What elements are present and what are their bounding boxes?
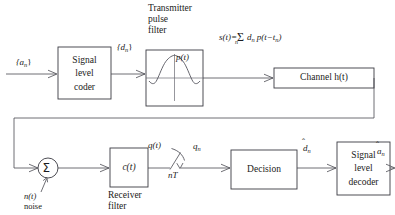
dn-hat-text: d — [303, 143, 308, 153]
block-diagram-canvas: {an} Signal level coder {dn} Transmitter… — [0, 0, 395, 215]
signal-dn-open: {d — [117, 42, 125, 52]
noise-line-2: noise — [24, 201, 42, 211]
qn-text: q — [193, 141, 198, 151]
tpf-line-2: pulse — [148, 14, 192, 25]
decoder-line-2: level — [337, 162, 390, 175]
block-label-decision: Decision — [231, 164, 297, 175]
channel-text: Channel h(t) — [300, 72, 348, 82]
block-label-channel: Channel h(t) — [274, 72, 374, 83]
block-label-signal-level-coder: Signal level coder — [58, 54, 111, 94]
signal-label-pt: p(t) — [176, 52, 189, 63]
signal-label-qn: qn — [193, 141, 201, 152]
eq-d-symbol: d — [247, 32, 252, 42]
nT-text: nT — [168, 170, 178, 180]
signal-label-dn-hat: ̂dn — [303, 143, 311, 154]
tpf-line-3: filter — [148, 25, 192, 36]
signal-dn-close: } — [128, 42, 132, 52]
eq-pulse: p(t−t — [257, 32, 276, 42]
ct-text: c(t) — [122, 162, 135, 172]
decoder-line-3: decoder — [337, 176, 390, 189]
an-hat-sub: n — [382, 150, 385, 157]
dn-hat-group: ̂d — [303, 143, 308, 154]
signal-input-an-sub: n — [24, 61, 27, 68]
rf-line-1: Receiver — [108, 190, 142, 201]
decision-text: Decision — [247, 164, 281, 174]
an-hat-group: ̂a — [377, 146, 382, 157]
sampler-label-nT: nT — [168, 170, 178, 181]
eq-sum-symbol: Σ — [237, 30, 244, 44]
sampler-arc — [172, 149, 185, 161]
noise-line-1: n(t) — [24, 191, 42, 201]
coder-line-3: coder — [58, 81, 111, 94]
equation-transmitted-signal: s(t)=Σndnp(t−tn) — [219, 29, 282, 43]
caption-noise: n(t) noise — [24, 191, 42, 211]
sigma-text: Σ — [43, 161, 51, 175]
dn-hat-sub: n — [308, 147, 311, 154]
qt-text: q(t) — [148, 140, 161, 150]
eq-sum-index: n — [235, 39, 238, 45]
diagram-wires — [0, 0, 395, 215]
signal-input-an-close: } — [27, 57, 31, 67]
qn-sub: n — [198, 145, 201, 152]
caption-receiver-filter: Receiver filter — [108, 190, 142, 212]
signal-label-input-an: {an} — [16, 57, 32, 68]
eq-pulse-sub: n — [275, 36, 278, 43]
summer-sigma-icon: Σ — [43, 161, 51, 175]
signal-label-an-hat: ̂an — [377, 146, 385, 157]
an-hat-text: a — [377, 146, 382, 156]
signal-label-qt: q(t) — [148, 140, 161, 151]
eq-d-sub: n — [252, 36, 255, 43]
signal-label-dn: {dn} — [117, 42, 133, 53]
pt-text: p(t) — [176, 52, 189, 62]
rf-line-2: filter — [108, 201, 142, 212]
signal-input-an-open: {a — [16, 57, 24, 67]
block-label-receiver-filter: c(t) — [110, 162, 148, 173]
tpf-line-1: Transmitter — [148, 3, 192, 14]
caption-transmitter-pulse-filter: Transmitter pulse filter — [148, 3, 192, 37]
coder-line-2: level — [58, 67, 111, 80]
signal-dn-sub: n — [125, 46, 128, 53]
coder-line-1: Signal — [58, 54, 111, 67]
